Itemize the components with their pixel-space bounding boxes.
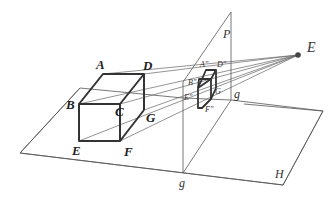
label-ground-plane: H: [274, 167, 285, 181]
label-b-image: B": [188, 78, 197, 87]
label-g: G: [146, 110, 156, 125]
label-d-image: D": [216, 60, 227, 69]
label-f-image: F": [204, 105, 214, 114]
object-cube: [79, 74, 144, 141]
label-e-image: E": [183, 93, 193, 102]
label-eye: E: [306, 40, 316, 55]
label-ground-line-top: g: [234, 87, 240, 101]
label-a-image: A": [199, 60, 209, 69]
label-g-image: G: [215, 87, 221, 96]
label-f: F: [123, 144, 133, 159]
label-d: D: [142, 58, 153, 73]
perspective-projection-diagram: A D B C G E F A" D" B" G E" F" E P g g H: [0, 0, 335, 205]
label-c: C: [115, 104, 124, 119]
label-picture-plane: P: [222, 27, 231, 41]
label-a: A: [95, 57, 105, 72]
label-ground-line-bottom: g: [179, 176, 185, 190]
label-b: B: [65, 97, 75, 112]
label-e: E: [71, 143, 81, 158]
eye-point: [295, 52, 301, 58]
